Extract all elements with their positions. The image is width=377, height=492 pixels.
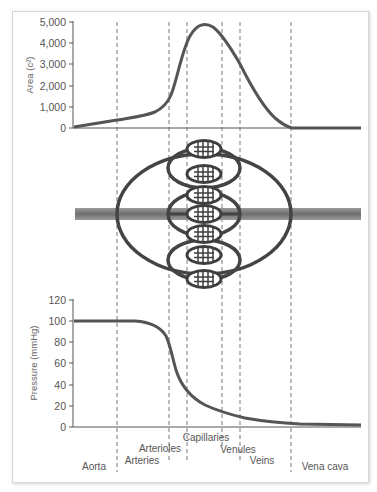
region-labels: Aorta Arteries Arterioles Capillaries Ve… — [82, 432, 349, 472]
pressure-tick-20: 20 — [54, 400, 66, 412]
label-vena-cava: Vena cava — [302, 461, 349, 472]
label-venules: Venules — [220, 444, 256, 455]
area-y-label: Area (c²) — [24, 57, 35, 94]
vessel-diagram — [75, 141, 361, 288]
pressure-tick-40: 40 — [54, 379, 66, 391]
area-tick-3000: 3,000 — [40, 58, 66, 70]
label-capillaries: Capillaries — [183, 432, 230, 443]
label-aorta: Aorta — [82, 461, 106, 472]
label-veins: Veins — [250, 455, 274, 466]
label-arterioles: Arterioles — [139, 443, 181, 454]
pressure-y-label: Pressure (mmHg) — [28, 326, 39, 401]
area-tick-5000: 5,000 — [40, 16, 66, 28]
pressure-tick-100: 100 — [48, 315, 66, 327]
area-tick-0: 0 — [60, 122, 66, 134]
capillary-bed — [187, 141, 221, 158]
circulation-figure: 0 1,000 2,000 3,000 4,000 5,000 Area (c²… — [0, 0, 377, 492]
pressure-tick-0: 0 — [60, 421, 66, 433]
area-tick-1000: 1,000 — [40, 101, 66, 113]
area-tick-2000: 2,000 — [40, 80, 66, 92]
area-chart: 0 1,000 2,000 3,000 4,000 5,000 Area (c²… — [24, 16, 361, 134]
label-arteries: Arteries — [125, 455, 159, 466]
pressure-chart: 0 20 40 60 80 100 120 Pressure (mmHg) — [28, 294, 361, 433]
area-tick-4000: 4,000 — [40, 37, 66, 49]
pressure-tick-120: 120 — [48, 294, 66, 306]
pressure-tick-80: 80 — [54, 336, 66, 348]
pressure-tick-60: 60 — [54, 357, 66, 369]
